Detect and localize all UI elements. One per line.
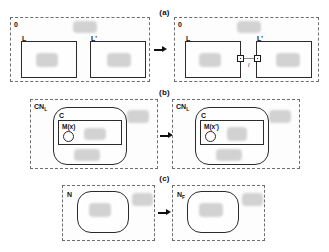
redacted-blob	[107, 53, 131, 67]
panel-a-after-box1	[185, 41, 241, 78]
panel-a-after-box2	[256, 41, 312, 78]
panel-a-caption: (a)	[0, 8, 329, 17]
panel-c: (c) N NF	[0, 174, 329, 248]
panel-c-after-container	[187, 191, 239, 233]
link-port-right	[254, 55, 261, 62]
redacted-blob	[36, 53, 58, 67]
circle-node	[63, 131, 74, 142]
panel-a-after-outer-label: 0	[178, 21, 182, 28]
redacted-blob	[84, 128, 106, 140]
panel-c-after-outer: NF	[172, 185, 265, 241]
panel-a-after-outer: 0 L L' l	[174, 17, 319, 82]
panel-b-before-outer-label: CNL	[34, 103, 47, 112]
redacted-blob	[74, 149, 100, 161]
redacted-blob	[127, 110, 149, 123]
panel-a: (a) 0 L L' 0 L L'	[0, 8, 329, 86]
panel-b-before-container-label: C	[59, 112, 64, 119]
redacted-blob	[227, 127, 247, 141]
panel-b-before-outer: CNL C M(x)	[30, 99, 158, 169]
panel-a-before-outer: 0 L L'	[10, 17, 150, 82]
panel-b-before-container: C M(x)	[53, 107, 127, 165]
redacted-blob	[269, 110, 291, 123]
panel-a-before-box1	[21, 41, 77, 78]
circle-node	[205, 131, 216, 142]
redacted-blob	[237, 21, 261, 33]
panel-b: (b) CNL C M(x) CNL C	[0, 88, 329, 172]
panel-b-after-outer: CNL C M(x')	[172, 99, 300, 169]
panel-c-before-outer-label: N	[67, 191, 72, 200]
redacted-blob	[216, 149, 242, 161]
panel-b-caption: (b)	[0, 88, 329, 97]
arrow-right-icon	[158, 209, 172, 217]
panel-c-caption: (c)	[0, 174, 329, 183]
panel-a-before-box2	[90, 41, 146, 78]
panel-b-after-container: C M(x')	[195, 107, 269, 165]
panel-b-after-outer-label: CNL	[176, 103, 189, 112]
panel-b-after-inner-box: M(x')	[200, 120, 264, 145]
panel-b-after-container-label: C	[201, 112, 206, 119]
panel-a-before-outer-label: 0	[14, 21, 18, 28]
panel-c-before-outer: N	[62, 185, 155, 241]
arrow-right-icon	[154, 46, 168, 54]
redacted-blob	[199, 53, 221, 67]
link-label: l	[248, 62, 249, 68]
redacted-blob	[132, 193, 153, 206]
panel-b-before-inner-box: M(x)	[58, 120, 122, 145]
redacted-blob	[73, 21, 97, 33]
panel-c-after-outer-label: NF	[177, 191, 185, 200]
panel-c-before-container	[77, 191, 129, 233]
redacted-blob	[89, 203, 111, 217]
redacted-blob	[276, 53, 300, 67]
panel-b-before-node-label: M(x)	[62, 123, 75, 130]
redacted-blob	[199, 203, 223, 217]
link-port-left	[237, 55, 244, 62]
figure-diagram: (a) 0 L L' 0 L L'	[0, 0, 329, 252]
redacted-blob	[242, 193, 263, 206]
panel-b-after-node-label: M(x')	[204, 123, 219, 130]
